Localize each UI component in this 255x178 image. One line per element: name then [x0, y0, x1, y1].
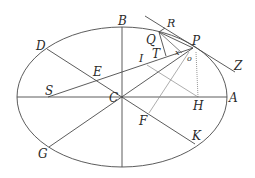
label-H: H: [192, 99, 204, 113]
label-B: B: [117, 14, 127, 28]
segment-QR: [159, 28, 165, 32]
ellipse-diagram: B R Q P D I T x o Z E S C A H F K G: [0, 0, 255, 178]
line-SP: [48, 48, 193, 97]
label-P: P: [191, 34, 201, 48]
label-S: S: [45, 84, 53, 98]
label-T: T: [152, 47, 161, 61]
diameter-GP: [49, 48, 193, 147]
label-R: R: [166, 17, 175, 30]
tangent-line: [145, 16, 235, 72]
label-F: F: [138, 114, 148, 128]
line-IH: [147, 65, 198, 97]
label-C: C: [109, 91, 118, 105]
label-K: K: [191, 129, 202, 143]
label-A: A: [228, 91, 238, 105]
label-Q: Q: [146, 33, 156, 47]
label-o: o: [187, 54, 192, 63]
diagram-svg: B R Q P D I T x o Z E S C A H F K G: [0, 0, 255, 178]
label-G: G: [38, 147, 48, 161]
line-PH: [196, 52, 198, 97]
label-I: I: [138, 52, 144, 65]
chord-QP: [159, 32, 193, 48]
label-Z: Z: [233, 59, 243, 73]
label-D: D: [35, 39, 46, 53]
diameter-DK: [47, 49, 195, 144]
label-x: x: [175, 48, 180, 57]
label-E: E: [92, 65, 102, 79]
